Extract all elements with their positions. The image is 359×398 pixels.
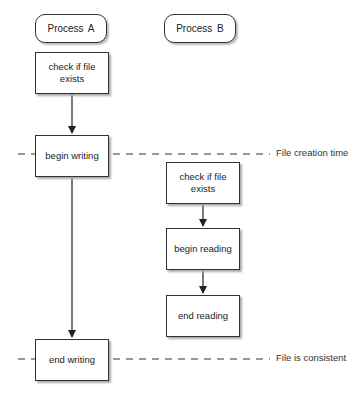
node-a-end-writing: end writing xyxy=(35,339,109,381)
arrowhead-icon xyxy=(68,330,76,338)
lane-header-process-b: Process B xyxy=(164,14,236,43)
marker-label-file-is-consistent: File is consistent xyxy=(276,352,346,363)
node-a-check-file-exists: check if file exists xyxy=(35,52,109,94)
arrowhead-icon xyxy=(199,219,207,227)
arrowhead-icon xyxy=(199,286,207,294)
lane-header-process-a: Process A xyxy=(35,14,107,43)
node-a-begin-writing: begin writing xyxy=(35,135,109,177)
marker-label-file-creation-time: File creation time xyxy=(276,147,348,158)
node-b-check-file-exists: check if file exists xyxy=(166,162,240,204)
node-b-begin-reading: begin reading xyxy=(166,228,240,270)
arrowhead-icon xyxy=(68,126,76,134)
node-b-end-reading: end reading xyxy=(166,295,240,337)
